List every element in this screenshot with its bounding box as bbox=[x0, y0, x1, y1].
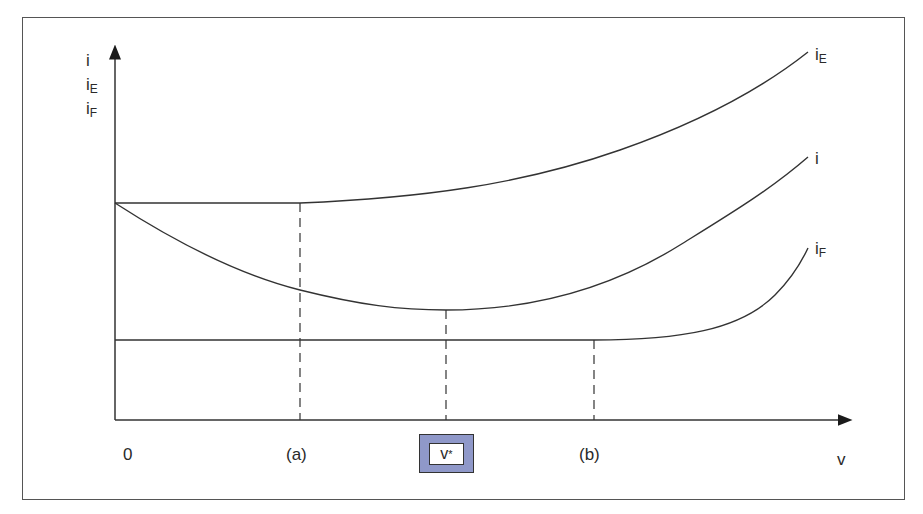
curve-i bbox=[115, 157, 808, 310]
y-label-iE: iE bbox=[86, 76, 98, 95]
curve-label-iE: iE bbox=[815, 46, 827, 65]
tick-b: (b) bbox=[579, 446, 600, 463]
curve-iE bbox=[115, 52, 808, 203]
x-label-v: v bbox=[837, 451, 846, 468]
y-label-i: i bbox=[86, 52, 90, 69]
tick-a: (a) bbox=[286, 446, 307, 463]
tick-vstar: v* bbox=[429, 443, 464, 465]
curve-label-i: i bbox=[815, 150, 819, 167]
curve-label-iF: iF bbox=[815, 240, 826, 259]
y-label-iF: iF bbox=[86, 100, 97, 119]
tick-zero: 0 bbox=[123, 446, 132, 463]
curve-iF bbox=[115, 248, 808, 340]
tick-vstar-highlight: v* bbox=[419, 434, 474, 473]
